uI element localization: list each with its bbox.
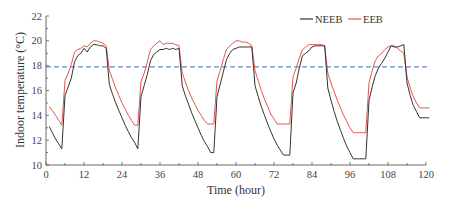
y-tick-label: 10	[32, 160, 43, 171]
y-tick-label: 16	[32, 85, 43, 96]
x-tick-label: 96	[345, 169, 356, 180]
legend-label: EEB	[363, 14, 383, 25]
series-lines	[49, 41, 429, 159]
x-tick-label: 120	[418, 169, 434, 180]
y-tick-label: 20	[32, 35, 43, 46]
x-tick-label: 108	[380, 169, 396, 180]
legend-label: NEEB	[315, 14, 342, 25]
y-tick-label: 14	[32, 110, 43, 121]
x-tick-label: 24	[117, 169, 128, 180]
x-tick-label: 0	[43, 169, 48, 180]
line-chart: 10121416182022 01224364860728496108120 I…	[0, 0, 450, 207]
y-tick-label: 18	[32, 60, 43, 71]
x-tick-label: 48	[193, 169, 204, 180]
y-tick-label: 22	[32, 11, 43, 22]
x-tick-label: 12	[79, 169, 90, 180]
y-tick-label: 12	[32, 135, 43, 146]
x-tick-label: 84	[307, 169, 318, 180]
x-tick-label: 60	[231, 169, 242, 180]
x-tick-label: 36	[155, 169, 166, 180]
y-axis-title: Indoor temperature (°C)	[13, 32, 27, 148]
series-neeb	[49, 45, 429, 159]
x-tick-label: 72	[269, 169, 280, 180]
legend: NEEBEEB	[300, 14, 383, 25]
y-axis: 10121416182022	[32, 11, 50, 171]
x-axis-title: Time (hour)	[207, 183, 265, 197]
x-axis: 01224364860728496108120	[43, 162, 434, 180]
